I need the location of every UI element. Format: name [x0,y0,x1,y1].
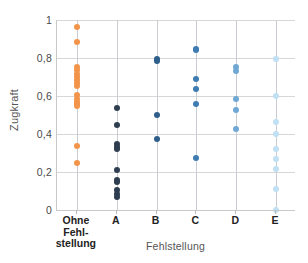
data-point [74,143,80,149]
gridline-horizontal [57,96,295,97]
plot-area [56,20,295,210]
data-point [114,194,120,200]
data-point [114,146,120,152]
x-axis-tick-mark [116,210,117,214]
data-point [114,105,120,111]
data-point [233,107,239,113]
data-point [273,156,279,162]
x-axis-title: Fehlstellung [56,240,295,252]
gridline-horizontal [57,134,295,135]
data-point [273,146,279,152]
data-point [273,56,279,62]
y-axis-tick-label: 0,4 [4,128,52,140]
y-axis-tick-label: 0,8 [4,52,52,64]
data-point [193,86,199,92]
x-axis-tick-mark [195,210,196,214]
data-point [273,131,279,137]
data-point [193,76,199,82]
data-point [273,166,279,172]
data-point [74,160,80,166]
data-point [273,119,279,125]
data-point [233,126,239,132]
x-axis-tick-mark [275,210,276,214]
x-axis-tick-mark [76,210,77,214]
x-axis-category-label-line: E [240,215,308,227]
x-axis-category-label: E [240,215,308,227]
x-axis-tick-mark [156,210,157,214]
y-axis-tick-label: 0,6 [4,90,52,102]
y-axis-tick-label: 0,2 [4,166,52,178]
data-point [74,39,80,45]
gridline-vertical [236,20,237,210]
data-point [154,112,160,118]
data-point [74,24,80,30]
data-point [273,93,279,99]
data-point [193,101,199,107]
gridline-horizontal [57,20,295,21]
data-point [114,179,120,185]
data-point [154,136,160,142]
data-point [193,155,199,161]
gridline-horizontal [57,172,295,173]
gridline-vertical [276,20,277,210]
y-axis-tick-label: 1 [4,14,52,26]
data-point [114,167,120,173]
x-axis-tick-mark [235,210,236,214]
data-point [114,122,120,128]
gridline-horizontal [57,58,295,59]
data-point [233,68,239,74]
scatter-chart: Zugkraft 00,20,40,60,81 OhneFehl-stellun… [0,0,308,263]
data-point [154,58,160,64]
data-point [273,186,279,192]
x-axis-line [56,210,295,211]
data-point [193,47,199,53]
data-point [233,96,239,102]
data-point [74,83,80,89]
gridline-vertical [77,20,78,210]
data-point [74,103,80,109]
